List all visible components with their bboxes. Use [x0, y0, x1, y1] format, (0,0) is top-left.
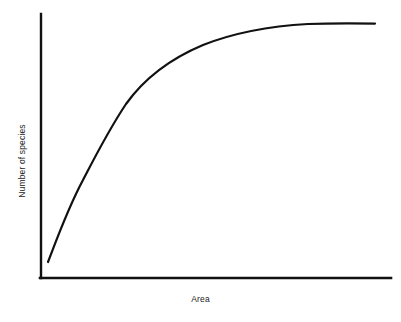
y-axis-label: Number of species — [18, 0, 32, 322]
x-axis-label: Area — [0, 295, 401, 304]
species-area-chart-figure: Number of species Area — [0, 0, 401, 322]
plot-canvas — [0, 0, 401, 322]
species-area-curve — [48, 23, 375, 262]
